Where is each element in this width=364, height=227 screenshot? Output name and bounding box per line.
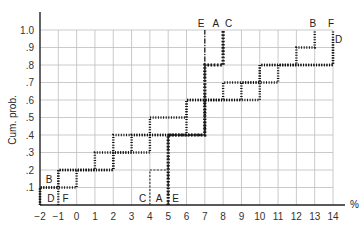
x-tick-label: 1: [92, 211, 98, 222]
series-label-e: E: [198, 18, 205, 29]
cumulative-probability-chart: .1.2.3.4.5.6.7.8.91.0 −2−101234567891011…: [0, 0, 364, 227]
x-tick-labels: −2−101234567891011121314: [34, 211, 339, 222]
y-tick-label: .1: [26, 182, 35, 193]
series-label-d: D: [47, 193, 54, 204]
series-label-f: F: [328, 18, 334, 29]
x-tick-label: 6: [184, 211, 190, 222]
x-tick-label: 2: [110, 211, 116, 222]
series-label-a: A: [156, 193, 163, 204]
y-tick-label: .2: [26, 165, 35, 176]
x-tick-label: 14: [327, 211, 339, 222]
y-tick-label: .6: [26, 95, 35, 106]
y-tick-label: .7: [26, 77, 35, 88]
x-tick-label: −1: [53, 211, 65, 222]
series-label-c: C: [225, 18, 232, 29]
x-tick-label: 3: [129, 211, 135, 222]
y-tick-label: 1.0: [20, 25, 34, 36]
x-tick-label: 11: [273, 211, 284, 222]
y-tick-label: .4: [26, 130, 35, 141]
x-tick-label: 12: [291, 211, 303, 222]
series-label-c: C: [139, 193, 146, 204]
series-label-e: E: [172, 193, 179, 204]
x-axis-label: %: [350, 199, 359, 210]
x-tick-label: 0: [74, 211, 80, 222]
y-tick-labels: .1.2.3.4.5.6.7.8.91.0: [20, 25, 34, 194]
series-labels: BDFCAEEACBFD: [46, 18, 342, 204]
x-tick-label: 13: [309, 211, 321, 222]
x-tick-label: 7: [202, 211, 208, 222]
series-label-b: B: [310, 18, 317, 29]
y-tick-label: .9: [26, 42, 35, 53]
series-label-d: D: [335, 34, 342, 45]
x-tick-label: 9: [239, 211, 245, 222]
x-tick-label: 10: [254, 211, 266, 222]
y-tick-label: .3: [26, 147, 35, 158]
axes: [40, 12, 345, 205]
x-tick-label: −2: [34, 211, 46, 222]
x-tick-label: 4: [147, 211, 153, 222]
y-axis-label: Cum. prob.: [7, 95, 18, 144]
x-tick-label: 8: [220, 211, 226, 222]
series-label-a: A: [212, 18, 219, 29]
y-tick-label: .5: [26, 112, 35, 123]
series-label-f: F: [63, 193, 69, 204]
series-label-b: B: [46, 174, 53, 185]
y-tick-label: .8: [26, 60, 35, 71]
x-tick-label: 5: [165, 211, 171, 222]
